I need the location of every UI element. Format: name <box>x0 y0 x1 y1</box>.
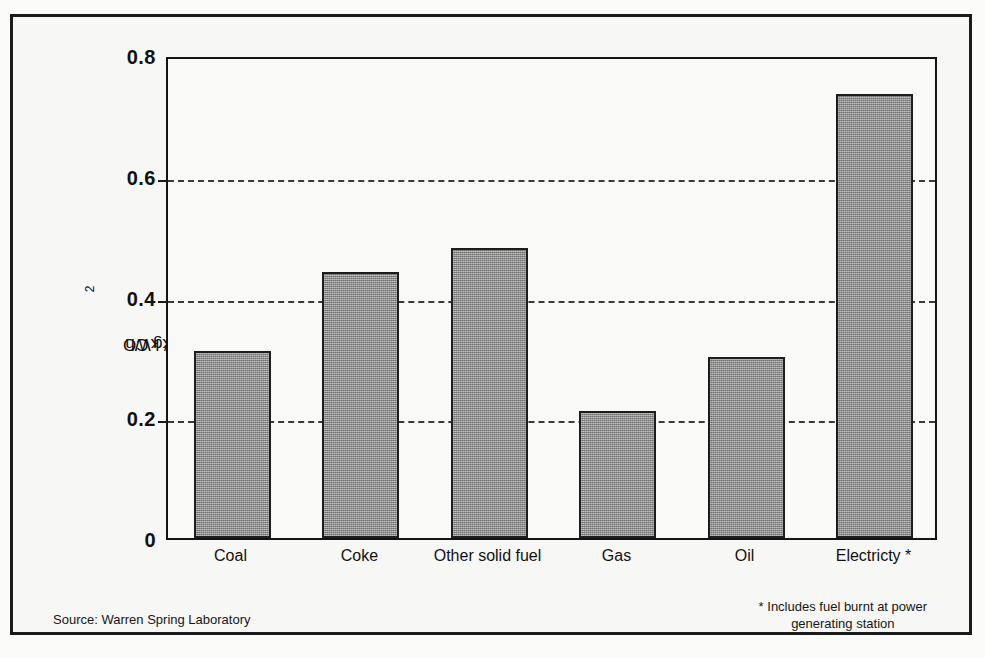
footnote-line-1: * Includes fuel burnt at power <box>759 598 927 615</box>
bar-oil <box>708 357 785 538</box>
y-axis-title-subscript: 2 <box>83 286 97 293</box>
bar-other-solid-fuel <box>451 248 528 538</box>
x-tick-label-coal: Coal <box>166 546 295 566</box>
x-axis-tick-labels: CoalCokeOther solid fuelGasOilElectricty… <box>166 546 937 606</box>
x-tick-label-coke: Coke <box>295 546 424 566</box>
y-tick-label-0.4: 0.4 <box>127 287 156 310</box>
bar-electricty <box>836 94 913 538</box>
source-note: Source: Warren Spring Laboratory <box>53 612 251 627</box>
y-tick-label-0.2: 0.2 <box>127 408 156 431</box>
bar-gas <box>579 411 656 538</box>
y-tick-label-0.6: 0.6 <box>127 166 156 189</box>
figure-container: kg CO2/ kWh 00.20.40.60.8 CoalCokeOther … <box>0 0 985 658</box>
plot-area <box>166 57 937 540</box>
bar-coal <box>194 351 271 538</box>
chart-frame: kg CO2/ kWh 00.20.40.60.8 CoalCokeOther … <box>10 14 972 635</box>
y-tick-label-0.8: 0.8 <box>127 46 156 69</box>
x-tick-label-other-solid-fuel: Other solid fuel <box>423 546 552 566</box>
y-tick-mark-0.6 <box>158 180 167 182</box>
gridline-0.2 <box>168 421 935 423</box>
footnote-note: * Includes fuel burnt at power generatin… <box>759 598 927 632</box>
y-tick-mark-0.2 <box>158 421 167 423</box>
x-tick-label-oil: Oil <box>680 546 809 566</box>
y-tick-mark-0.4 <box>158 301 167 303</box>
bar-coke <box>322 272 399 538</box>
x-tick-label-electricty: Electricty * <box>809 546 938 566</box>
gridline-0.4 <box>168 301 935 303</box>
y-axis-tick-labels: 00.20.40.60.8 <box>108 57 156 540</box>
y-tick-label-0: 0 <box>144 529 156 552</box>
gridline-0.6 <box>168 180 935 182</box>
x-tick-label-gas: Gas <box>552 546 681 566</box>
footnote-line-2: generating station <box>759 615 927 632</box>
y-axis-title: kg CO2/ kWh <box>65 217 105 367</box>
